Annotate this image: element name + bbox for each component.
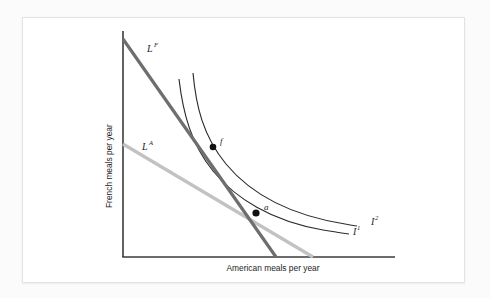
budget-line-french-label: L (146, 43, 153, 54)
point-f-marker (210, 144, 217, 151)
y-axis-title: French meals per year (104, 124, 114, 208)
point-a-label: a (264, 202, 269, 212)
point-f-label: f (220, 136, 224, 146)
indifference-curve-1-label-sup: 1 (357, 224, 360, 231)
indifference-curve-2 (193, 73, 357, 226)
budget-line-american-label: L (141, 141, 148, 152)
screenshot-root: French meals per year American meals per… (0, 0, 490, 298)
x-axis-title: American meals per year (226, 263, 319, 273)
point-a-marker (252, 209, 259, 216)
economics-indifference-curve-chart: French meals per year American meals per… (23, 18, 464, 282)
budget-line-american (123, 144, 313, 257)
budget-line-american-label-sup: A (148, 139, 154, 146)
figure-card: French meals per year American meals per… (22, 17, 465, 283)
budget-line-french-label-sup: F (153, 41, 159, 48)
indifference-curve-2-label-sup: 2 (375, 214, 379, 221)
